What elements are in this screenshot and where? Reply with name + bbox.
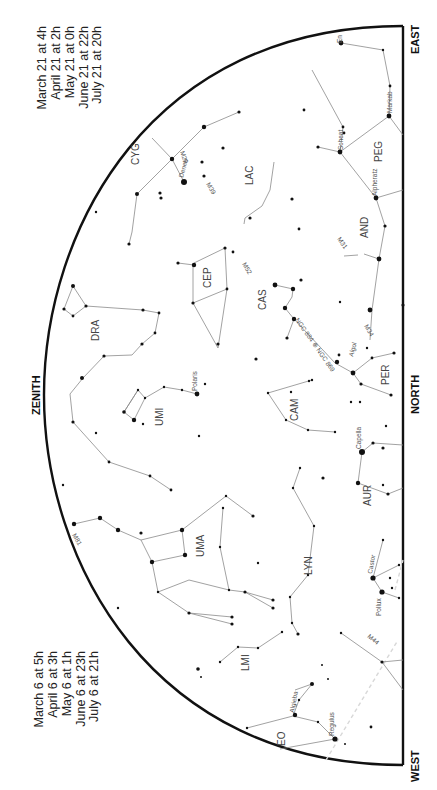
deep-sky-labels: M29 M39 M52 M31 NGC 884 ⊕ NGC 869 M34 M8… — [71, 150, 381, 646]
constellation-lines — [64, 43, 403, 749]
name-pollux: Pollux — [375, 598, 382, 616]
label-uma: UMA — [195, 534, 206, 557]
time-row: April 21 at 2h — [49, 26, 63, 100]
name-alpheratz: Alpheratz — [371, 169, 379, 196]
star-chart: CYG LAC PEG AND CEP CAS DRA PER UMI CAM … — [0, 0, 437, 790]
label-m44: M44 — [366, 632, 380, 646]
direction-north: NORTH — [409, 375, 421, 414]
ecliptic-line — [326, 640, 398, 760]
label-lyn: LYN — [303, 556, 314, 575]
time-row: March 21 at 4h — [35, 26, 49, 109]
time-row: March 6 at 5h — [32, 651, 46, 727]
name-enif: En — [336, 35, 343, 43]
label-leo: EO — [276, 731, 287, 746]
label-cam: CAM — [289, 399, 300, 421]
label-cas: CAS — [257, 289, 268, 310]
time-row: July 6 at 21h — [87, 651, 101, 722]
label-m34: M34 — [363, 323, 376, 338]
direction-west: WEST — [409, 750, 421, 782]
label-dra: DRA — [90, 320, 101, 341]
stars — [62, 41, 405, 745]
label-cep: CEP — [202, 267, 213, 288]
label-aur: AUR — [362, 485, 373, 506]
name-regulus: Regulus — [328, 711, 336, 736]
time-table-top: March 21 at 4h April 21 at 2h May 21 at … — [35, 26, 104, 109]
name-polaris: Polaris — [191, 370, 198, 391]
label-m39: M39 — [205, 181, 218, 196]
label-umi: UMI — [154, 408, 165, 426]
label-per: PER — [380, 364, 391, 385]
time-row: May 21 at 0h — [63, 26, 77, 98]
name-capella: Capella — [355, 427, 363, 449]
direction-east: EAST — [409, 24, 421, 54]
label-lmi: LMI — [240, 654, 251, 671]
label-m31: M31 — [336, 236, 349, 251]
time-row: May 6 at 1h — [60, 651, 74, 716]
label-and: AND — [359, 217, 370, 238]
time-row: July 21 at 20h — [90, 26, 104, 104]
name-scheat: Scheat — [337, 130, 344, 150]
label-lac: LAC — [244, 166, 255, 185]
time-row: April 6 at 3h — [46, 651, 60, 718]
name-markab: Markab — [386, 91, 393, 113]
time-row: June 21 at 22h — [77, 26, 91, 109]
label-cyg: CYG — [130, 143, 141, 165]
label-m52: M52 — [241, 261, 254, 276]
name-algol: Algol — [347, 341, 359, 358]
label-peg: PEG — [373, 141, 384, 162]
time-table-bottom: March 6 at 5h April 6 at 3h May 6 at 1h … — [32, 651, 101, 727]
direction-zenith: ZENITH — [30, 375, 42, 415]
label-ngc: NGC 884 ⊕ NGC 869 — [294, 317, 337, 374]
constellation-labels: CYG LAC PEG AND CEP CAS DRA PER UMI CAM … — [90, 141, 391, 746]
time-row: June 6 at 23h — [74, 651, 88, 727]
